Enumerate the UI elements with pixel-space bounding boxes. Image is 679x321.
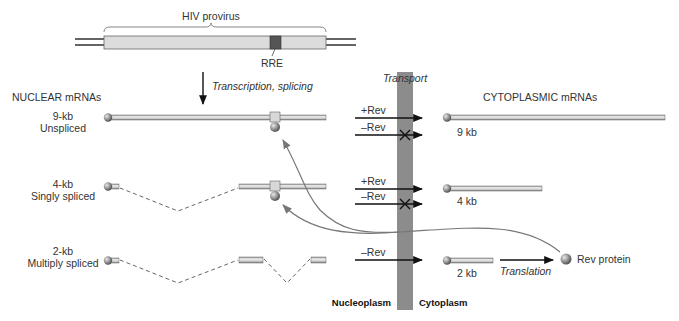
provirus-title: HIV provirus <box>182 10 240 22</box>
provirus: HIV provirus RRE <box>75 10 356 69</box>
cyto-mrna-9kb <box>447 115 665 120</box>
arrow-label: +Rev <box>361 104 387 116</box>
bound-rev-icon <box>270 191 280 201</box>
nucleoplasm-label: Nucleoplasm <box>332 297 391 308</box>
bound-rev-icon <box>270 122 280 132</box>
provirus-brace <box>104 23 326 32</box>
cyto-size-label: 2 kb <box>457 267 477 279</box>
cap-icon <box>104 113 112 121</box>
transport-label: Transport <box>383 72 428 84</box>
rre-label: RRE <box>261 57 283 69</box>
cap-icon <box>443 184 451 192</box>
cyto-mrna-2kb <box>447 258 493 263</box>
arrow-label: –Rev <box>361 121 386 133</box>
cap-icon <box>443 113 451 121</box>
arrow-label: +Rev <box>361 175 387 187</box>
exon-2 <box>239 257 263 263</box>
nuclear-envelope-transport-band <box>397 72 413 310</box>
row-type: Singly spliced <box>31 190 95 202</box>
rre-site <box>270 112 280 122</box>
exon-2 <box>239 184 326 189</box>
cyto-size-label: 4 kb <box>457 195 477 207</box>
nuclear-header: NUCLEAR mRNAs <box>12 91 101 103</box>
row-type: Multiply spliced <box>27 257 98 269</box>
hiv-rev-diagram: HIV provirus RRE Transcription, splicing… <box>0 0 679 321</box>
spliced-intron-2 <box>264 259 310 283</box>
cap-icon <box>104 182 112 190</box>
exon-3 <box>311 257 326 263</box>
rev-import-arrow-to-4kb <box>283 205 400 233</box>
cyto-size-label: 9 kb <box>457 126 477 138</box>
row-2kb: 2-kb Multiply spliced –Rev 2 kb <box>27 245 493 283</box>
rev-protein-icon <box>561 254 572 265</box>
rre-site <box>270 181 280 191</box>
spliced-intron <box>120 260 238 283</box>
spliced-intron <box>120 188 238 211</box>
row-size: 2-kb <box>53 245 74 257</box>
row-type: Unspliced <box>40 122 86 134</box>
cap-icon <box>443 256 451 264</box>
transcription-label: Transcription, splicing <box>212 80 313 92</box>
cyto-mrna-4kb <box>447 186 542 191</box>
provirus-bar <box>104 36 326 49</box>
rev-import-arrow-to-9kb <box>283 140 560 252</box>
nuclear-mrna-9kb <box>108 115 326 120</box>
translation-label: Translation <box>500 265 551 277</box>
row-size: 9-kb <box>53 110 74 122</box>
row-size: 4-kb <box>53 178 74 190</box>
row-9kb: 9-kb Unspliced +Rev –Rev 9 kb <box>40 104 665 140</box>
rre-element <box>270 36 281 49</box>
arrow-label: –Rev <box>361 190 386 202</box>
cytoplasmic-header: CYTOPLASMIC mRNAs <box>483 91 597 103</box>
arrow-label: –Rev <box>361 246 386 258</box>
cytoplasm-label: Cytoplasm <box>419 297 468 308</box>
rev-protein-label: Rev protein <box>577 253 631 265</box>
cap-icon <box>104 256 112 264</box>
row-4kb: 4-kb Singly spliced +Rev –Rev 4 kb <box>31 175 542 211</box>
